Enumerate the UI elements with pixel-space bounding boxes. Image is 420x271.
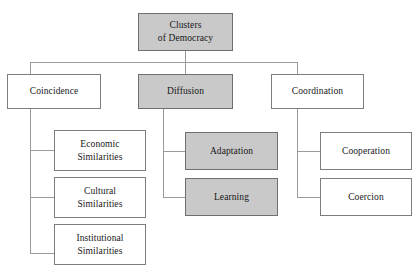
- node-label-coordination: Coordination: [289, 85, 346, 98]
- node-label-economic-similarities: Economic Similarities: [74, 138, 125, 163]
- edge-elbow-cultural: [30, 197, 55, 198]
- node-label-cultural-similarities: Cultural Similarities: [74, 185, 125, 210]
- edge-spine-coordination: [297, 108, 298, 197]
- edge-level2-bus: [30, 62, 298, 63]
- node-label-diffusion: Diffusion: [164, 85, 207, 98]
- node-cooperation[interactable]: Cooperation: [320, 132, 412, 170]
- edge-spine-coincidence: [30, 108, 31, 254]
- node-label-root: Clusters of Democracy: [155, 19, 216, 44]
- node-label-learning: Learning: [211, 191, 252, 204]
- edge-elbow-institutional: [30, 253, 55, 254]
- node-label-adaptation: Adaptation: [207, 145, 256, 158]
- node-label-coercion: Coercion: [345, 191, 387, 204]
- node-label-coincidence: Coincidence: [27, 85, 82, 98]
- edge-elbow-adaptation: [163, 151, 186, 152]
- node-clusters-of-democracy[interactable]: Clusters of Democracy: [138, 13, 233, 51]
- edge-elbow-economic: [30, 150, 55, 151]
- diagram-canvas: Clusters of Democracy Coincidence Diffus…: [0, 0, 420, 271]
- edge-spine-diffusion: [163, 108, 164, 197]
- node-label-cooperation: Cooperation: [339, 145, 393, 158]
- node-coordination[interactable]: Coordination: [271, 74, 364, 109]
- node-diffusion[interactable]: Diffusion: [138, 74, 233, 109]
- node-learning[interactable]: Learning: [185, 178, 278, 216]
- node-institutional-similarities[interactable]: Institutional Similarities: [54, 224, 146, 265]
- node-economic-similarities[interactable]: Economic Similarities: [54, 130, 146, 171]
- node-cultural-similarities[interactable]: Cultural Similarities: [54, 177, 146, 218]
- node-coincidence[interactable]: Coincidence: [7, 74, 101, 109]
- edge-elbow-learning: [163, 197, 186, 198]
- node-label-institutional-similarities: Institutional Similarities: [73, 232, 126, 257]
- edge-elbow-cooperation: [297, 151, 321, 152]
- edge-elbow-coercion: [297, 197, 321, 198]
- node-adaptation[interactable]: Adaptation: [185, 132, 278, 170]
- node-coercion[interactable]: Coercion: [320, 178, 412, 216]
